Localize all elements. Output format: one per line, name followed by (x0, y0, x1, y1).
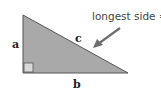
side-b-label: b (73, 78, 81, 91)
side-c-label: c (75, 32, 82, 45)
longest-side-annotation: longest side = (92, 10, 161, 22)
side-a-label: a (12, 38, 19, 51)
right-angle-marker (24, 63, 33, 72)
triangle-diagram: a c b longest side = (0, 0, 161, 97)
arrow-icon (93, 28, 120, 48)
